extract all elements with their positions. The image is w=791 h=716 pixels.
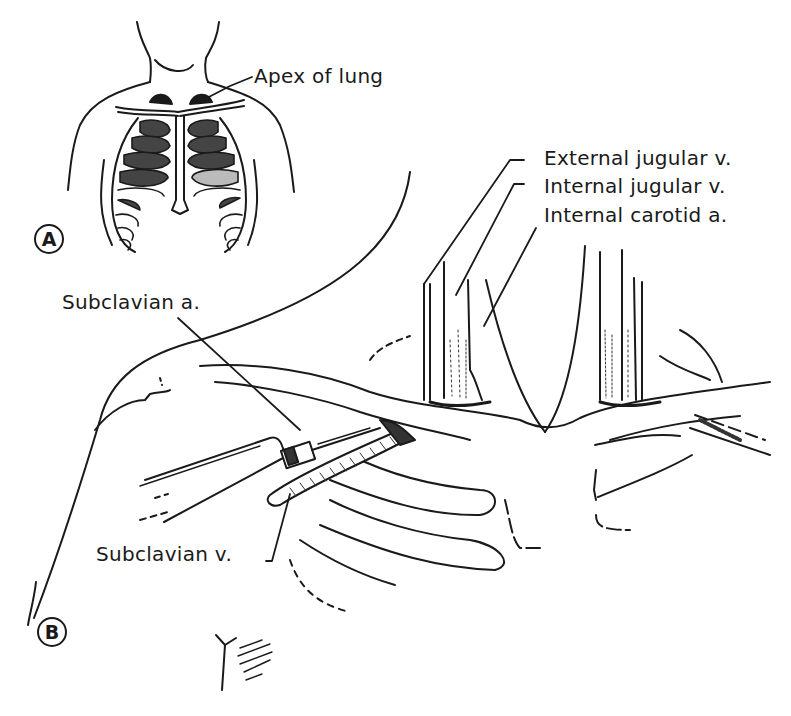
- anatomical-illustration: [0, 0, 791, 716]
- syringe: [140, 420, 415, 522]
- label-apex-of-lung: Apex of lung: [254, 66, 383, 86]
- label-external-jugular-v: External jugular v.: [544, 148, 732, 168]
- panel-b-badge: B: [37, 617, 67, 647]
- panel-a-badge: A: [34, 224, 64, 254]
- label-subclavian-a: Subclavian a.: [62, 292, 200, 312]
- label-internal-carotid-a: Internal carotid a.: [544, 205, 727, 225]
- label-subclavian-v: Subclavian v.: [96, 544, 232, 564]
- panel-a-thorax: [68, 22, 294, 252]
- panel-b-subclavian: [28, 160, 770, 690]
- label-internal-jugular-v: Internal jugular v.: [544, 176, 726, 196]
